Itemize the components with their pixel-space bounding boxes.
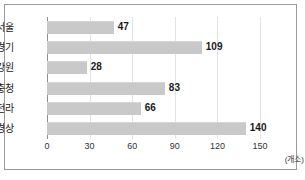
- x-tick-label: 0: [44, 141, 49, 151]
- category-label: 서울: [0, 21, 14, 35]
- bar-row: 경상140: [47, 122, 260, 135]
- category-label: 충청: [0, 82, 14, 96]
- category-label: 강원: [0, 61, 14, 75]
- category-label: 경기: [0, 41, 14, 55]
- bar-value-label: 140: [250, 121, 267, 135]
- x-tick-label: 90: [170, 141, 180, 151]
- bar: [47, 82, 165, 95]
- bar-row: 충청83: [47, 82, 260, 95]
- bar: [47, 21, 114, 34]
- bar: [47, 61, 87, 74]
- x-tick-label: 60: [127, 141, 137, 151]
- plot-area: 서울47경기109강원28충청83전라66경상140: [47, 17, 260, 139]
- bar-row: 서울47: [47, 21, 260, 34]
- x-tick-label: 120: [210, 141, 225, 151]
- x-tick-label: 30: [85, 141, 95, 151]
- bar-value-label: 47: [118, 20, 129, 34]
- x-tick-label: 150: [252, 141, 267, 151]
- bar: [47, 41, 202, 54]
- category-label: 전라: [0, 102, 14, 116]
- axis-unit-label: (개소): [260, 153, 303, 164]
- chart-frame: 서울47경기109강원28충청83전라66경상140 0306090120150…: [4, 4, 297, 170]
- x-axis: 0306090120150: [47, 139, 260, 155]
- bar-value-label: 66: [145, 101, 156, 115]
- bar-value-label: 83: [169, 81, 180, 95]
- bar-value-label: 109: [206, 40, 223, 54]
- bar-value-label: 28: [91, 60, 102, 74]
- bar-row: 경기109: [47, 41, 260, 54]
- category-label: 경상: [0, 122, 14, 136]
- bar: [47, 102, 141, 115]
- bar-row: 강원28: [47, 61, 260, 74]
- bar: [47, 122, 246, 135]
- bar-row: 전라66: [47, 102, 260, 115]
- bar-rows: 서울47경기109강원28충청83전라66경상140: [47, 17, 260, 139]
